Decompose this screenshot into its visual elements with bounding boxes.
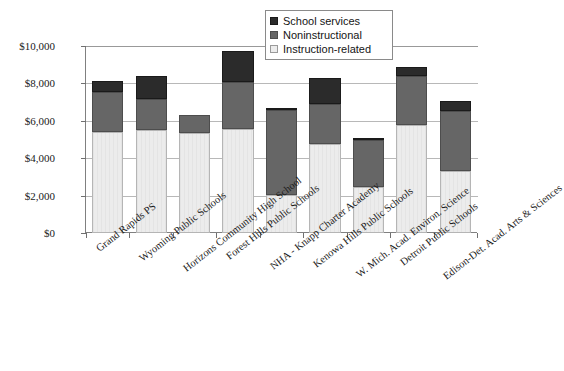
segment-school-services [440,101,471,110]
bar-group[interactable] [92,46,123,233]
light-square-swatch-icon [270,45,278,53]
legend-item-school-services[interactable]: School services [270,14,388,28]
ytick-label-4000: $4,000 [0,153,55,164]
segment-school-services [309,78,340,104]
segment-school-services [353,138,384,141]
ytick-label-8000: $8,000 [0,78,55,89]
segment-noninstructional [353,140,384,187]
bar-group[interactable] [396,46,427,233]
legend-label-school-services: School services [283,15,360,27]
segment-noninstructional [440,111,471,172]
legend-item-instruction-related[interactable]: Instruction-related [270,42,388,56]
category-axis-labels: Grand Rapids PSWyoming Public SchoolsHor… [0,233,501,371]
segment-school-services [396,67,427,76]
segment-noninstructional [179,115,210,133]
segment-school-services [266,108,297,110]
segment-instruction-related [92,132,123,233]
segment-school-services [92,81,123,92]
segment-school-services [136,76,167,99]
ytick-label-2000: $2,000 [0,191,55,202]
chart-legend: School services Noninstructional Instruc… [265,10,393,60]
gray-square-swatch-icon [270,31,278,39]
segment-noninstructional [309,104,340,144]
segment-noninstructional [396,76,427,125]
legend-label-noninstructional: Noninstructional [283,29,362,41]
segment-noninstructional [92,92,123,132]
bar-group[interactable] [222,46,253,233]
legend-label-instruction-related: Instruction-related [283,43,371,55]
bar-group[interactable] [309,46,340,233]
ytick-label-6000: $6,000 [0,116,55,127]
legend-item-noninstructional[interactable]: Noninstructional [270,28,388,42]
segment-noninstructional [222,82,253,130]
segment-school-services [222,51,253,82]
segment-noninstructional [136,99,167,130]
ytick-label-10000: $10,000 [0,41,55,52]
dark-square-swatch-icon [270,17,278,25]
